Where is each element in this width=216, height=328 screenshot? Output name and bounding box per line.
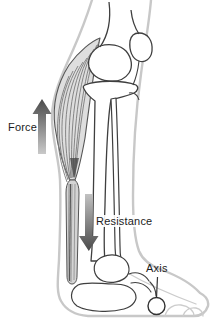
axis-leader-line	[157, 277, 158, 298]
fibula-bone	[111, 98, 126, 277]
leg-illustration	[0, 0, 216, 328]
calcaneus-bone	[71, 283, 135, 311]
axis-circle-marker	[148, 298, 165, 315]
leg-lever-diagram: Force Resistance Axis	[0, 0, 216, 328]
toes-outline	[165, 305, 203, 316]
resistance-label: Resistance	[95, 215, 153, 227]
femur-bone-right-edge	[131, 10, 139, 34]
axis-label: Axis	[146, 262, 168, 274]
force-label: Force	[8, 121, 37, 133]
femur-bone-left-edge	[100, 2, 110, 47]
femoral-condyle-bone	[89, 45, 132, 82]
patella-bone	[130, 33, 152, 62]
patellar-tendon-line	[133, 61, 139, 85]
talus-bone	[94, 255, 129, 282]
